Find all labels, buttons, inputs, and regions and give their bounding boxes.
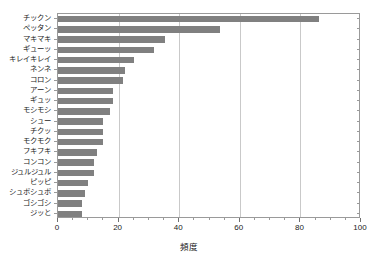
bar-row (58, 180, 359, 186)
y-axis-tick-right (357, 172, 360, 173)
y-axis-tick-label: キレイキレイ (9, 55, 51, 62)
y-axis-tick (54, 182, 57, 183)
bars-layer (58, 14, 359, 217)
y-axis-tick (54, 49, 57, 50)
y-axis-tick-right (357, 49, 360, 50)
y-axis-tick-label: ネンネ (30, 65, 51, 72)
y-axis-tick-label: ゴシゴシ (23, 199, 51, 206)
y-axis-tick (54, 18, 57, 19)
bar (58, 200, 82, 206)
y-axis-tick-label: チクッ (30, 127, 51, 134)
y-axis-tick-label: シュポシュポ (9, 188, 51, 195)
x-axis-minor-tick (224, 218, 225, 220)
y-axis-tick (54, 90, 57, 91)
y-axis-tick (54, 39, 57, 40)
x-axis-minor-tick (315, 218, 316, 220)
y-axis-tick-label: コンコン (23, 158, 51, 165)
horizontal-bar-chart: チックンペッタンマキマキギューッキレイキレイネンネコロンアーンギュッモシモシシュ… (0, 0, 378, 269)
y-axis-tick (54, 172, 57, 173)
x-axis-minor-tick (254, 218, 255, 220)
y-axis-tick-right (357, 28, 360, 29)
bar (58, 36, 165, 42)
bar (58, 211, 82, 217)
y-axis-tick (54, 121, 57, 122)
y-axis-tick-right (357, 100, 360, 101)
bar (58, 67, 125, 73)
y-axis-tick (54, 110, 57, 111)
x-axis-minor-tick (72, 218, 73, 220)
y-axis-tick-right (357, 39, 360, 40)
y-axis-tick-right (357, 192, 360, 193)
x-axis-tick (118, 218, 119, 222)
bar-row (58, 200, 359, 206)
y-axis-tick-label: ギュッ (30, 96, 51, 103)
y-axis-tick-label: マキマキ (23, 35, 51, 42)
bar (58, 88, 113, 94)
bar (58, 139, 103, 145)
bar-row (58, 98, 359, 104)
bar (58, 159, 94, 165)
bar (58, 57, 134, 63)
x-axis-minor-tick (148, 218, 149, 220)
y-axis-tick (54, 151, 57, 152)
y-axis-tick-label: モシモシ (23, 106, 51, 113)
bar (58, 190, 85, 196)
y-axis-tick (54, 192, 57, 193)
y-axis-labels: チックンペッタンマキマキギューッキレイキレイネンネコロンアーンギュッモシモシシュ… (0, 13, 55, 218)
y-axis-tick (54, 28, 57, 29)
y-axis-tick-label: チックン (23, 14, 51, 21)
bar-row (58, 36, 359, 42)
x-axis-minor-tick (269, 218, 270, 220)
y-axis-tick-label: コロン (30, 76, 51, 83)
y-axis-tick (54, 100, 57, 101)
y-axis-tick-label: ギューッ (23, 45, 51, 52)
bar-row (58, 67, 359, 73)
x-axis-tick-label: 80 (295, 224, 304, 232)
x-axis-tick-label: 40 (174, 224, 183, 232)
bar-row (58, 88, 359, 94)
y-axis-tick-right (357, 182, 360, 183)
x-axis-minor-tick (345, 218, 346, 220)
bar (58, 98, 113, 104)
x-axis-tick (57, 218, 58, 222)
x-axis-minor-tick (102, 218, 103, 220)
bar (58, 77, 123, 83)
bar-row (58, 108, 359, 114)
y-axis-tick-right (357, 121, 360, 122)
y-axis-tick-label: モクモク (23, 137, 51, 144)
y-axis-tick-label: ジュルジュル (11, 168, 51, 175)
y-axis-tick-right (357, 69, 360, 70)
x-axis-tick (178, 218, 179, 222)
plot-area (57, 13, 360, 218)
y-axis-tick-right (357, 59, 360, 60)
y-axis-tick-right (357, 162, 360, 163)
x-axis-minor-tick (193, 218, 194, 220)
bar-row (58, 16, 359, 22)
x-axis-tick (299, 218, 300, 222)
x-axis-minor-tick (209, 218, 210, 220)
x-axis-tick-label: 100 (353, 224, 366, 232)
y-axis-tick (54, 141, 57, 142)
x-axis-minor-tick (163, 218, 164, 220)
y-axis-tick-label: アーン (30, 86, 51, 93)
y-axis-tick-right (357, 90, 360, 91)
bar-row (58, 159, 359, 165)
y-axis-tick-label: シュー (30, 117, 51, 124)
bar-row (58, 129, 359, 135)
y-axis-tick (54, 59, 57, 60)
y-axis-tick-label: フキフキ (23, 147, 51, 154)
bar-row (58, 57, 359, 63)
x-axis-minor-tick (330, 218, 331, 220)
y-axis-tick-right (357, 203, 360, 204)
x-axis-tick-label: 0 (55, 224, 59, 232)
x-axis-tick (360, 218, 361, 222)
y-axis-tick-right (357, 141, 360, 142)
bar (58, 108, 110, 114)
bar-row (58, 139, 359, 145)
bar-row (58, 211, 359, 217)
y-axis-tick-label: ジッと (30, 209, 51, 216)
y-axis-tick (54, 131, 57, 132)
bar-row (58, 190, 359, 196)
x-axis-tick-label: 20 (113, 224, 122, 232)
x-axis-tick (239, 218, 240, 222)
